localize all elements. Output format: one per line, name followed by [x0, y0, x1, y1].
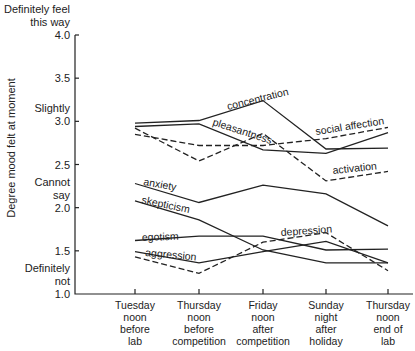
series-label-skepticism: skepticism	[141, 193, 192, 215]
y-annotation-label: Cannot	[35, 176, 70, 188]
x-tick-label: Thursday	[366, 299, 411, 311]
x-tick-label: Thursday	[177, 299, 222, 311]
y-annotation-label: not	[55, 275, 70, 287]
series-label-depression: depression	[280, 222, 332, 238]
series-label-egotism: egotism	[142, 230, 179, 243]
y-annotation-label: Definitely	[25, 262, 71, 274]
x-tick-label: holiday	[309, 335, 343, 347]
series-label-social-affection: social affection	[314, 114, 384, 137]
y-axis-title: Degree mood felt at moment	[5, 78, 17, 217]
series-label-concentration: concentration	[226, 85, 290, 112]
x-tick-label: noon	[376, 311, 400, 323]
x-tick-label: noon	[251, 311, 275, 323]
y-tick-label: 2.5	[55, 159, 70, 171]
y-tick-label: 2.0	[55, 202, 70, 214]
y-annotation-label: Slightly	[35, 102, 71, 114]
x-tick-label: before	[184, 323, 214, 335]
y-axis-title-text: Degree mood felt at moment	[5, 78, 17, 217]
x-tick-label: after	[252, 323, 274, 335]
y-tick-label: 3.5	[55, 72, 70, 84]
x-tick-label: Tuesday	[115, 299, 156, 311]
y-tick-label: 1.0	[55, 288, 70, 300]
x-tick-label: end of	[373, 323, 402, 335]
y-annotation-label: say	[53, 189, 71, 201]
x-tick-label: before	[120, 323, 150, 335]
x-tick-label: Friday	[248, 299, 278, 311]
x-axis-ticks: TuesdaynoonbeforelabThursdaynoonbeforeco…	[115, 289, 411, 347]
y-annotation-label: this way	[30, 16, 70, 28]
series-label-anxiety: anxiety	[143, 175, 179, 193]
x-tick-label: lab	[128, 335, 142, 347]
y-tick-label: 3.0	[55, 115, 70, 127]
y-annotation-label: Definitely feel	[4, 3, 70, 15]
x-tick-label: competition	[172, 335, 226, 347]
y-tick-label: 4.0	[55, 29, 70, 41]
y-tick-label: 1.5	[55, 245, 70, 257]
x-tick-label: competition	[236, 335, 290, 347]
x-tick-label: night	[315, 311, 338, 323]
x-tick-label: after	[315, 323, 337, 335]
x-tick-label: Sunday	[308, 299, 344, 311]
x-tick-label: noon	[187, 311, 211, 323]
mood-line-chart: Degree mood felt at moment Definitely fe…	[0, 0, 415, 351]
x-tick-label: lab	[381, 335, 395, 347]
series-label-aggression: aggression	[145, 246, 197, 262]
x-tick-label: noon	[123, 311, 147, 323]
